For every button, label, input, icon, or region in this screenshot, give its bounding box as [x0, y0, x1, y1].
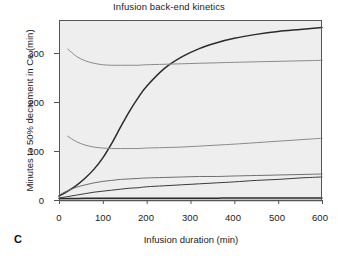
series-label-fentanyl: Fentanyl	[248, 34, 283, 44]
x-tick-label-100: 100	[83, 212, 123, 223]
y-tick-label-300: 300	[10, 48, 44, 59]
series-label-remifentanil: Remifentanil	[237, 186, 287, 196]
series-label-hydromorphone: Hydromorphone	[227, 129, 292, 139]
figure-panel: Infusion back-end kinetics C Infusion du…	[0, 0, 338, 261]
series-label-alfentanil: Alfentanil	[140, 168, 177, 178]
x-tick-label-400: 400	[213, 212, 253, 223]
x-axis-label: Infusion duration (min)	[60, 234, 322, 245]
plot-background	[59, 20, 322, 200]
x-tick-label-200: 200	[126, 212, 166, 223]
y-axis-label: Minutes to 50% decrement in Ce (min)	[24, 11, 35, 211]
y-tick-label-100: 100	[10, 146, 44, 157]
panel-letter: C	[14, 233, 22, 245]
plot-area	[59, 20, 322, 200]
chart-title: Infusion back-end kinetics	[0, 1, 338, 12]
plot-frame	[59, 20, 322, 201]
curve-morphine	[68, 49, 322, 65]
series-label-sufentanil: Sufentanil	[140, 186, 180, 196]
x-tick-label-300: 300	[170, 212, 210, 223]
series-curves	[59, 28, 322, 199]
curve-fentanyl	[59, 28, 322, 197]
x-tick-label-600: 600	[300, 212, 338, 223]
y-tick-label-0: 0	[10, 195, 44, 206]
x-tick-label-500: 500	[257, 212, 297, 223]
y-tick-label-200: 200	[10, 97, 44, 108]
series-label-morphine: Morphine	[248, 67, 286, 77]
x-tick-label-0: 0	[39, 212, 79, 223]
